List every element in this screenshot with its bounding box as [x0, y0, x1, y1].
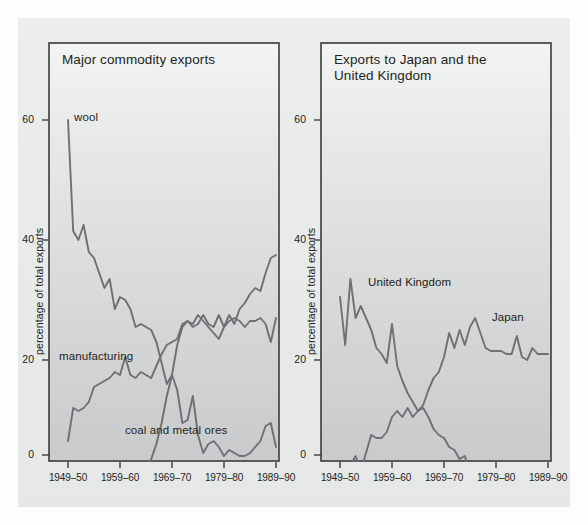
left-xtick-1959-60: 1959–60	[90, 472, 150, 483]
left-ytick-0: 0	[10, 448, 34, 460]
right-xtick-1979-80: 1979–80	[466, 472, 526, 483]
right-panel-svg	[320, 42, 552, 462]
left-ytick-20: 20	[10, 353, 34, 365]
left-xtick-1949-50: 1949–50	[38, 472, 98, 483]
panel-exports-to-japan-and-uk: Exports to Japan and the United Kingdom …	[320, 42, 552, 462]
panel-major-commodity-exports: Major commodity exports wool manufacturi…	[48, 42, 280, 462]
left-ytick-40: 40	[10, 233, 34, 245]
series-label-japan: Japan	[492, 311, 524, 323]
left-x-tickmarks	[48, 462, 282, 472]
left-panel-svg	[48, 42, 280, 462]
left-y-axis-label: percentage of total exports	[33, 228, 45, 355]
right-xtick-1949-50: 1949–50	[310, 472, 370, 483]
right-xtick-1969-70: 1969–70	[414, 472, 474, 483]
right-panel-title: Exports to Japan and the United Kingdom	[334, 52, 487, 84]
right-xtick-1989-90: 1989–90	[518, 472, 578, 483]
series-label-wool: wool	[74, 111, 98, 123]
series-label-manufacturing: manufacturing	[59, 350, 133, 362]
chart-figure: Major commodity exports wool manufacturi…	[0, 0, 588, 525]
right-ytick-40: 40	[282, 233, 306, 245]
left-xtick-1969-70: 1969–70	[142, 472, 202, 483]
right-y-axis-label: percentage of total exports	[305, 228, 317, 355]
left-ytick-60: 60	[10, 113, 34, 125]
right-ytick-0: 0	[282, 448, 306, 460]
right-ytick-20: 20	[282, 353, 306, 365]
right-ytick-60: 60	[282, 113, 306, 125]
left-plot-background	[49, 43, 279, 461]
right-x-tickmarks	[320, 462, 554, 472]
left-panel-title: Major commodity exports	[62, 52, 215, 68]
left-xtick-1989-90: 1989–90	[246, 472, 306, 483]
right-xtick-1959-60: 1959–60	[362, 472, 422, 483]
right-plot-background	[321, 43, 551, 461]
series-label-united-kingdom: United Kingdom	[368, 276, 451, 288]
left-xtick-1979-80: 1979–80	[194, 472, 254, 483]
series-label-coal-and-metal-ores: coal and metal ores	[125, 424, 227, 436]
